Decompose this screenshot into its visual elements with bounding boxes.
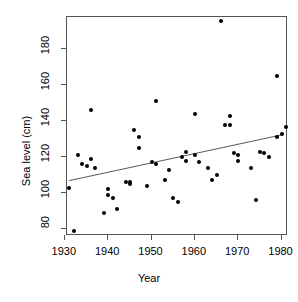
data-point xyxy=(128,182,132,186)
y-axis-tick xyxy=(61,48,66,49)
x-axis-tick xyxy=(237,235,238,240)
x-axis-tick-label: 1930 xyxy=(52,246,76,257)
y-axis-tick-label: 140 xyxy=(40,108,51,126)
y-axis-tick-label: 180 xyxy=(40,36,51,54)
x-axis-tick-label: 1960 xyxy=(182,246,206,257)
data-point xyxy=(228,114,232,118)
data-point xyxy=(267,155,271,159)
x-axis-tick xyxy=(194,235,195,240)
data-point xyxy=(184,150,188,154)
y-axis-tick-label: 80 xyxy=(40,216,51,228)
data-point xyxy=(145,184,149,188)
x-axis-tick xyxy=(64,235,65,240)
data-point xyxy=(93,166,97,170)
data-point xyxy=(223,123,227,127)
data-point xyxy=(228,123,232,127)
x-axis-label: Year xyxy=(0,272,298,284)
data-point xyxy=(280,132,284,136)
data-point xyxy=(124,180,128,184)
data-point xyxy=(215,173,219,177)
data-point xyxy=(176,200,180,204)
data-point xyxy=(89,157,93,161)
data-point xyxy=(254,198,258,202)
y-axis-tick-label: 120 xyxy=(40,144,51,162)
data-point xyxy=(115,207,119,211)
y-axis-tick xyxy=(61,192,66,193)
data-point xyxy=(137,146,141,150)
data-point xyxy=(72,229,76,233)
data-point xyxy=(102,211,106,215)
y-axis-tick xyxy=(61,120,66,121)
data-point xyxy=(106,193,110,197)
x-axis-tick-label: 1940 xyxy=(95,246,119,257)
plot-area xyxy=(66,16,287,235)
x-axis-tick xyxy=(281,235,282,240)
x-axis-tick-label: 1980 xyxy=(268,246,292,257)
y-axis-tick xyxy=(61,228,66,229)
data-point xyxy=(85,164,89,168)
data-point xyxy=(236,159,240,163)
y-axis-tick-label: 160 xyxy=(40,72,51,90)
x-axis-tick-label: 1950 xyxy=(138,246,162,257)
data-point xyxy=(284,125,288,129)
sea-level-scatter-chart: 80100120140160180 1930194019501960197019… xyxy=(0,0,298,302)
y-axis-tick xyxy=(61,156,66,157)
data-point xyxy=(67,186,71,190)
data-point xyxy=(249,166,253,170)
data-point xyxy=(206,166,210,170)
data-point xyxy=(154,162,158,166)
data-point xyxy=(111,196,115,200)
data-point xyxy=(180,155,184,159)
data-point xyxy=(193,112,197,116)
data-point xyxy=(137,135,141,139)
data-point xyxy=(150,160,154,164)
data-point xyxy=(219,19,223,23)
x-axis-tick xyxy=(151,235,152,240)
data-point xyxy=(163,178,167,182)
x-axis-tick-label: 1970 xyxy=(225,246,249,257)
x-axis-tick xyxy=(107,235,108,240)
data-point xyxy=(184,159,188,163)
y-axis-label: Sea level (cm) xyxy=(20,116,32,186)
y-axis-tick-label: 100 xyxy=(40,180,51,198)
data-point xyxy=(167,168,171,172)
y-axis-tick xyxy=(61,84,66,85)
